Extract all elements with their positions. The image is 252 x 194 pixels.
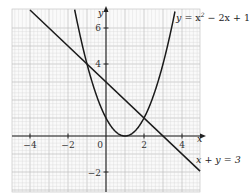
y-tick-label-4: 4 <box>95 59 101 69</box>
y-axis-label: y <box>97 7 104 18</box>
curve-eq-tail: − 2x + 1 <box>205 12 250 23</box>
y-tick-label-6: 6 <box>95 23 101 33</box>
y-tick-label-neg2: −2 <box>88 168 101 178</box>
curve-equation-label: y = x2 − 2x + 1 <box>175 11 250 23</box>
curve-eq-rest: = x <box>181 12 201 23</box>
line-equation-label: x + y = 3 <box>196 154 241 165</box>
origin-label: 0 <box>97 140 103 150</box>
x-axis-label: x <box>197 133 203 144</box>
x-tick-label-4: 4 <box>179 140 185 150</box>
graph: −4 −2 0 2 4 6 4 −2 x y y = x2 − 2x + 1 x… <box>0 0 252 194</box>
x-tick-label-neg4: −4 <box>23 140 37 150</box>
x-tick-label-2: 2 <box>141 140 147 150</box>
x-tick-label-neg2: −2 <box>61 140 74 150</box>
